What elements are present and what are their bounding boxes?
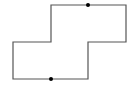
stepped-polygon-outline	[13, 5, 126, 79]
diagram-canvas	[0, 0, 132, 86]
bottom-edge-point	[49, 77, 53, 81]
top-edge-point	[86, 3, 90, 7]
